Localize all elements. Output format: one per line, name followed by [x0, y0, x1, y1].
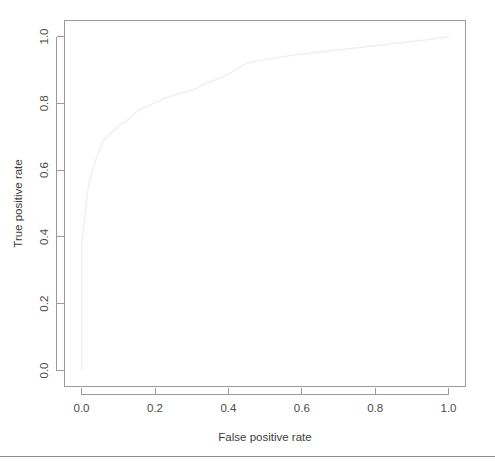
x-tick-label-0: 0.0: [74, 402, 90, 414]
x-tick-labels: 0.0 0.2 0.4 0.6 0.8 1.0: [74, 402, 457, 414]
roc-curve-line: [82, 37, 449, 371]
y-tick-label-2: 0.4: [38, 228, 50, 245]
x-axis: 0.0 0.2 0.4 0.6 0.8 1.0 False positive r…: [74, 388, 457, 444]
x-tick-label-4: 0.8: [367, 402, 383, 414]
x-tick-label-3: 0.6: [294, 402, 310, 414]
y-tick-label-4: 0.8: [38, 95, 50, 111]
x-tick-marks: [82, 388, 449, 395]
x-axis-title: False positive rate: [218, 431, 311, 443]
y-tick-labels: 0.0 0.2 0.4 0.6 0.8 1.0: [38, 29, 50, 379]
y-tick-label-5: 1.0: [38, 29, 50, 45]
x-tick-label-2: 0.4: [220, 402, 237, 414]
x-tick-label-5: 1.0: [441, 402, 457, 414]
y-axis-title: True positive rate: [12, 159, 24, 247]
x-tick-label-1: 0.2: [147, 402, 163, 414]
y-tick-label-1: 0.2: [38, 296, 50, 312]
y-tick-marks: [57, 37, 64, 371]
y-tick-label-0: 0.0: [38, 363, 50, 379]
roc-plot-figure: 0.0 0.2 0.4 0.6 0.8 1.0 True positive ra…: [0, 0, 495, 468]
y-axis: 0.0 0.2 0.4 0.6 0.8 1.0 True positive ra…: [12, 29, 63, 379]
roc-chart-canvas: 0.0 0.2 0.4 0.6 0.8 1.0 True positive ra…: [0, 0, 495, 468]
plot-frame: [65, 21, 466, 387]
y-tick-label-3: 0.6: [38, 162, 50, 178]
